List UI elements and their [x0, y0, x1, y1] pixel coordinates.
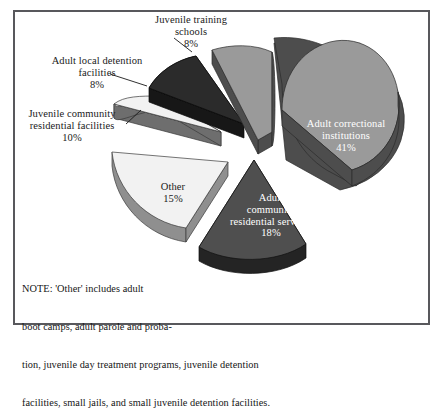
- label-text-line3: residential services: [230, 216, 312, 227]
- label-percent: 8%: [131, 38, 251, 50]
- label-adult-local-detention-facilities: Adult local detention facilities 8%: [36, 55, 158, 90]
- label-adult-community-residential-services: Adult community residential services 18%: [215, 192, 327, 239]
- label-text-line2: facilities: [78, 67, 115, 78]
- label-adult-correctional-institutions: Adult correctional institutions 41%: [291, 118, 401, 153]
- label-text-line2: community: [247, 204, 296, 215]
- label-text-line1: Adult local detention: [52, 55, 143, 66]
- label-other: Other 15%: [140, 181, 206, 205]
- label-percent: 18%: [215, 227, 327, 239]
- label-text-line2: institutions: [322, 130, 370, 141]
- label-percent: 10%: [14, 132, 130, 144]
- note-line-2: boot camps, adult parole and proba-: [22, 321, 270, 334]
- chart-note: NOTE: 'Other' includes adult boot camps,…: [22, 258, 270, 412]
- note-line-4: facilities, small jails, and small juven…: [22, 397, 270, 410]
- label-text-line1: Adult: [259, 192, 283, 203]
- label-juvenile-community-residential-facilities: Juvenile community residential facilitie…: [14, 108, 130, 143]
- note-line-1: NOTE: 'Other' includes adult: [22, 283, 270, 296]
- note-line-3: tion, juvenile day treatment programs, j…: [22, 359, 270, 372]
- label-percent: 41%: [291, 142, 401, 154]
- label-percent: 15%: [140, 193, 206, 205]
- label-text-line1: Juvenile training: [155, 14, 227, 25]
- label-percent: 8%: [36, 79, 158, 91]
- label-text-line1: Other: [161, 181, 185, 192]
- label-text-line1: Juvenile community: [28, 108, 115, 119]
- label-juvenile-training-schools: Juvenile training schools 8%: [131, 14, 251, 49]
- label-text-line1: Adult correctional: [307, 118, 385, 129]
- label-text-line2: residential facilities: [30, 120, 115, 131]
- label-text-line2: schools: [175, 26, 207, 37]
